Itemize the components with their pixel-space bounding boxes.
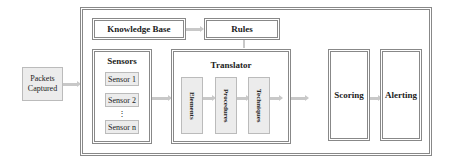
knowledge-base-box: Knowledge Base [92, 18, 186, 40]
sensors-title: Sensors [95, 56, 149, 66]
packets-captured-box: Packets Captured [22, 67, 63, 101]
arrow-elements-to-procedures [203, 97, 212, 100]
alerting-box: Alerting [380, 49, 422, 141]
arrow-techniques-to-tactics [270, 97, 279, 100]
arrow-procedures-to-techniques [237, 97, 246, 100]
sensor-ellipsis: ⋮ [95, 108, 149, 118]
scoring-box: Scoring [328, 49, 370, 141]
rules-box: Rules [204, 18, 280, 40]
arrow-sensors-to-translator [152, 97, 168, 100]
arrow-translator-to-scoring [291, 97, 305, 100]
arrow-rules-to-translator [243, 40, 245, 48]
arrow-scoring-to-alerting [370, 97, 378, 100]
sensor-item: Sensor n [105, 120, 139, 134]
arrow-input-to-system [63, 83, 77, 86]
sensor-item: Sensor 2 [105, 93, 139, 107]
stage-elements: Elements [181, 77, 203, 134]
sensors-box: Sensors Sensor 1 Sensor 2 ⋮ Sensor n [92, 49, 152, 144]
arrow-kb-to-rules [186, 28, 200, 31]
translator-title: Translator [174, 60, 288, 70]
stage-techniques: Techniques [248, 77, 270, 134]
stage-procedures: Procedures [215, 77, 237, 134]
sensor-item: Sensor 1 [105, 72, 139, 86]
